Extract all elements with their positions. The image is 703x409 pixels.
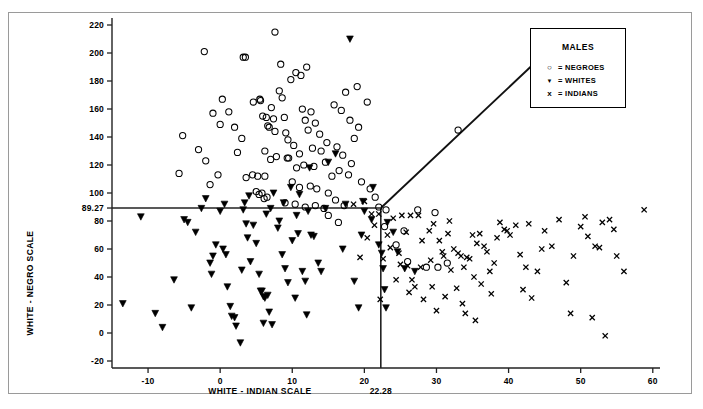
data-point-negroes <box>272 128 278 134</box>
data-point-whites <box>305 208 312 214</box>
data-point-indians <box>445 231 450 236</box>
data-point-whites <box>303 312 310 318</box>
data-point-indians <box>520 287 525 292</box>
data-point-negroes <box>285 137 291 143</box>
data-point-whites <box>244 235 251 241</box>
data-point-negroes <box>307 183 313 189</box>
data-point-negroes <box>312 120 318 126</box>
data-point-negroes <box>268 156 274 162</box>
data-point-indians <box>614 253 619 258</box>
y-tick-label: 200 <box>50 48 104 58</box>
data-point-negroes <box>348 161 354 167</box>
data-point-indians <box>564 280 569 285</box>
data-point-whites <box>276 218 283 224</box>
data-point-indians <box>474 241 479 246</box>
data-point-whites <box>223 252 230 258</box>
data-point-negroes <box>296 151 302 157</box>
data-point-whites <box>227 303 234 309</box>
data-point-negroes <box>324 140 330 146</box>
data-point-negroes <box>219 96 225 102</box>
data-point-negroes <box>262 173 268 179</box>
data-point-whites <box>184 219 191 225</box>
data-point-indians <box>430 284 435 289</box>
data-point-whites <box>212 242 219 248</box>
data-point-whites <box>266 309 273 315</box>
data-point-whites <box>411 268 418 274</box>
legend-entry-label: = INDIANS <box>558 89 598 98</box>
data-point-negroes <box>455 127 461 133</box>
data-point-whites <box>383 305 390 311</box>
legend-entry-whites: ▼= WHITES <box>545 76 596 85</box>
data-point-indians <box>513 223 518 228</box>
data-point-indians <box>642 207 647 212</box>
data-point-indians <box>427 228 432 233</box>
data-point-whites <box>332 151 339 157</box>
data-point-whites <box>224 284 231 290</box>
data-point-negroes <box>289 179 295 185</box>
data-point-whites <box>260 320 267 326</box>
legend-entry-label: = NEGROES <box>558 63 605 72</box>
data-point-indians <box>440 249 445 254</box>
data-point-whites <box>152 310 159 316</box>
data-point-indians <box>421 297 426 302</box>
legend-entry-indians: x= INDIANS <box>545 89 598 98</box>
data-point-indians <box>539 246 544 251</box>
data-point-whites <box>342 201 349 207</box>
y-tick-label: 80 <box>50 216 104 226</box>
data-point-whites <box>315 260 322 266</box>
data-point-negroes <box>263 114 269 120</box>
y-tick-label: 220 <box>50 20 104 30</box>
y-tick-label: 120 <box>50 160 104 170</box>
data-point-negroes <box>226 109 232 115</box>
y-tick-label: 0 <box>50 328 104 338</box>
x-marker-icon: x <box>545 89 554 98</box>
data-point-whites <box>159 324 166 330</box>
data-point-whites <box>233 323 240 329</box>
data-point-whites <box>274 225 281 231</box>
data-point-indians <box>494 235 499 240</box>
data-point-whites <box>292 295 299 301</box>
data-point-whites <box>390 229 397 235</box>
data-point-negroes <box>308 109 314 115</box>
data-point-negroes <box>207 182 213 188</box>
data-point-indians <box>489 291 494 296</box>
data-point-whites <box>289 238 296 244</box>
data-point-negroes <box>334 144 340 150</box>
data-point-negroes <box>279 95 285 101</box>
data-point-indians <box>492 260 497 265</box>
data-point-indians <box>447 218 452 223</box>
data-point-negroes <box>262 148 268 154</box>
x-tick-label: 40 <box>504 376 514 386</box>
data-point-indians <box>385 232 390 237</box>
data-point-whites <box>306 165 313 171</box>
y-axis-title: WHITE - NEGRO SCALE <box>25 223 35 343</box>
data-point-indians <box>372 223 377 228</box>
data-point-negroes <box>318 148 324 154</box>
data-point-whites <box>208 271 215 277</box>
x-tick-label: 10 <box>287 376 297 386</box>
data-point-negroes <box>364 99 370 105</box>
data-point-indians <box>443 294 448 299</box>
data-point-indians <box>409 277 414 282</box>
data-point-negroes <box>332 197 338 203</box>
data-point-negroes <box>415 207 421 213</box>
data-point-whites <box>192 229 199 235</box>
figure-container: -2002040608010012014016018020022089.27 -… <box>0 0 703 409</box>
data-point-indians <box>398 262 403 267</box>
data-point-whites <box>119 301 126 307</box>
data-point-whites <box>370 184 377 190</box>
data-point-whites <box>171 277 178 283</box>
x-axis-title: WHITE - INDIAN SCALE <box>170 386 350 396</box>
data-point-whites <box>293 212 300 218</box>
y-tick-label: 20 <box>50 300 104 310</box>
data-point-indians <box>578 224 583 229</box>
data-point-indians <box>523 265 528 270</box>
legend-title: MALES <box>531 42 625 52</box>
data-point-indians <box>434 308 439 313</box>
data-point-indians <box>406 290 411 295</box>
data-point-whites <box>253 240 260 246</box>
data-point-negroes <box>325 190 331 196</box>
data-point-whites <box>202 196 209 202</box>
data-point-whites <box>339 246 346 252</box>
data-point-indians <box>597 245 602 250</box>
